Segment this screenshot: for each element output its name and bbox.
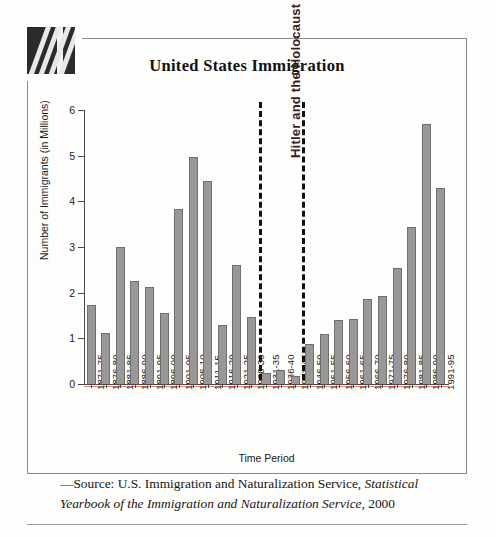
bar xyxy=(276,370,285,384)
annotation-dashed-line-start xyxy=(259,102,262,380)
x-tick-mark xyxy=(281,384,282,388)
y-tick-label: 6 xyxy=(69,104,75,116)
x-tick-mark xyxy=(295,384,296,388)
x-tick-mark xyxy=(150,384,151,388)
source-caption: —Source: U.S. Immigration and Naturaliza… xyxy=(60,474,460,514)
x-tick-label: 1936-40 xyxy=(285,354,296,390)
y-tick-label: 3 xyxy=(69,241,75,253)
x-tick-mark xyxy=(120,384,121,388)
y-tick-mark xyxy=(78,156,84,157)
x-tick-mark xyxy=(179,384,180,388)
x-tick-mark xyxy=(353,384,354,388)
bar xyxy=(334,320,343,384)
plot-area: 0123456 1871-751876-801881-851886-901891… xyxy=(84,110,448,384)
y-tick-label: 5 xyxy=(69,150,75,162)
annotation-label: Hitler and the Holocaust xyxy=(288,4,303,158)
bar xyxy=(407,227,416,384)
x-tick-mark xyxy=(193,384,194,388)
bar xyxy=(422,124,431,384)
x-tick-mark xyxy=(426,384,427,388)
y-tick-mark xyxy=(78,247,84,248)
source-prefix: —Source: U.S. Immigration and Naturaliza… xyxy=(60,476,365,491)
y-tick-label: 2 xyxy=(69,287,75,299)
x-tick-mark xyxy=(106,384,107,388)
x-tick-mark xyxy=(339,384,340,388)
y-tick-label: 1 xyxy=(69,332,75,344)
bar xyxy=(101,333,110,384)
x-tick-mark xyxy=(368,384,369,388)
x-tick-mark xyxy=(91,384,92,388)
y-tick-mark xyxy=(78,110,84,111)
bar xyxy=(189,157,198,384)
bar xyxy=(203,181,212,384)
y-tick-label: 4 xyxy=(69,195,75,207)
chart-page: United States Immigration 0123456 1871-7… xyxy=(0,0,496,537)
x-tick-mark xyxy=(324,384,325,388)
y-tick-mark xyxy=(78,384,84,385)
y-axis-title: Number of Immigrants (in Millions) xyxy=(38,100,50,260)
x-axis-title: Time Period xyxy=(84,452,449,464)
bar xyxy=(145,287,154,384)
x-tick-mark xyxy=(164,384,165,388)
x-tick-mark xyxy=(266,384,267,388)
x-tick-mark xyxy=(222,384,223,388)
bar xyxy=(305,344,314,384)
x-tick-mark xyxy=(310,384,311,388)
x-tick-mark xyxy=(135,384,136,388)
chart-title: United States Immigration xyxy=(27,56,467,76)
x-tick-mark xyxy=(208,384,209,388)
y-tick-mark xyxy=(78,293,84,294)
y-tick-mark xyxy=(78,338,84,339)
y-tick-label: 0 xyxy=(69,378,75,390)
x-tick-mark xyxy=(412,384,413,388)
x-tick-label: 1991-95 xyxy=(445,354,456,390)
y-tick-mark xyxy=(78,201,84,202)
bar xyxy=(174,209,183,384)
x-tick-mark xyxy=(251,384,252,388)
x-tick-mark xyxy=(237,384,238,388)
source-suffix: , 2000 xyxy=(362,496,395,511)
x-tick-mark xyxy=(397,384,398,388)
x-tick-mark xyxy=(441,384,442,388)
x-tick-mark xyxy=(382,384,383,388)
bar xyxy=(436,188,445,384)
bottom-rule xyxy=(27,524,467,525)
